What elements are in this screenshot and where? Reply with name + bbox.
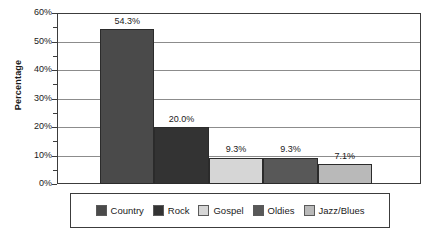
bar-value-label: 9.3% — [263, 144, 317, 154]
y-axis-tick-major — [52, 13, 57, 14]
bar-jazz-blues[interactable] — [318, 164, 372, 184]
y-axis-labels: 0%10%20%30%40%50%60% — [0, 0, 52, 236]
y-axis-tick-minor — [53, 170, 57, 171]
y-axis-tick-minor — [53, 141, 57, 142]
y-axis-tick-minor — [53, 56, 57, 57]
bar-value-label: 20.0% — [154, 114, 208, 124]
legend-swatch-icon — [253, 205, 264, 216]
legend-swatch-icon — [304, 205, 315, 216]
bar-value-label: 9.3% — [209, 144, 263, 154]
y-axis-tick-major — [52, 156, 57, 157]
y-axis-tick-label: 0% — [6, 178, 52, 188]
bar-country[interactable] — [100, 29, 154, 184]
y-axis-tick-major — [52, 127, 57, 128]
legend-label: Oldies — [268, 205, 295, 216]
y-axis-tick-major — [52, 42, 57, 43]
y-axis-tick-minor — [53, 113, 57, 114]
y-axis-tick-label: 50% — [6, 36, 52, 46]
legend-label: Country — [111, 205, 144, 216]
bars-layer: 54.3%20.0%9.3%9.3%7.1% — [57, 13, 421, 184]
bar-rock[interactable] — [154, 127, 208, 184]
y-axis-tick-major — [52, 70, 57, 71]
y-axis-tick-label: 60% — [6, 7, 52, 17]
legend-label: Jazz/Blues — [319, 205, 365, 216]
y-axis-tick-label: 10% — [6, 150, 52, 160]
bar-gospel[interactable] — [209, 158, 263, 185]
legend-swatch-icon — [153, 205, 164, 216]
y-axis-tick-major — [52, 99, 57, 100]
y-axis-tick-minor — [53, 27, 57, 28]
legend-item-country[interactable]: Country — [96, 205, 144, 216]
y-axis-tick-label: 20% — [6, 121, 52, 131]
bar-value-label: 7.1% — [318, 151, 372, 161]
legend-item-oldies[interactable]: Oldies — [253, 205, 295, 216]
y-axis-tick-label: 30% — [6, 93, 52, 103]
chart-legend: CountryRockGospelOldiesJazz/Blues — [70, 193, 390, 228]
y-axis-tick-label: 40% — [6, 64, 52, 74]
legend-label: Gospel — [213, 205, 243, 216]
legend-swatch-icon — [96, 205, 107, 216]
bar-value-label: 54.3% — [100, 16, 154, 26]
y-axis-tick-minor — [53, 84, 57, 85]
legend-item-rock[interactable]: Rock — [153, 205, 190, 216]
legend-item-jazz-blues[interactable]: Jazz/Blues — [304, 205, 365, 216]
legend-swatch-icon — [198, 205, 209, 216]
bar-oldies[interactable] — [263, 158, 317, 185]
legend-item-gospel[interactable]: Gospel — [198, 205, 243, 216]
bar-chart: Percentage 0%10%20%30%40%50%60% 54.3%20.… — [0, 0, 429, 236]
y-axis-tick-major — [52, 184, 57, 185]
legend-label: Rock — [168, 205, 190, 216]
